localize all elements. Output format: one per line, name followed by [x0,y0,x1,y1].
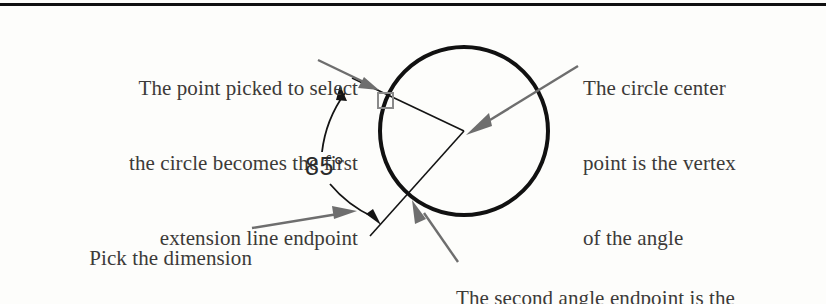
callout-second-extension: The second angle endpoint is the second … [456,236,816,304]
leader-line-second-extension [424,213,458,262]
leader-arrowhead-first-extension [358,77,379,90]
leader-line-center-vertex [490,66,578,120]
callout-center-vertex-line-2: point is the vertex [583,151,813,176]
angle-dimension-label: 85° [305,152,344,181]
callout-second-extension-line-1: The second angle endpoint is the [456,286,816,304]
callout-center-vertex-line-1: The circle center [583,76,813,101]
dimension-arc-arrowhead-end [366,209,381,225]
leader-arrowhead-center-vertex [466,113,492,135]
callout-first-extension-line-1: The point picked to select [40,76,358,101]
callout-arc-location-line-1: Pick the dimension [20,246,252,271]
callout-arc-location: Pick the dimension line arc location [20,196,252,304]
